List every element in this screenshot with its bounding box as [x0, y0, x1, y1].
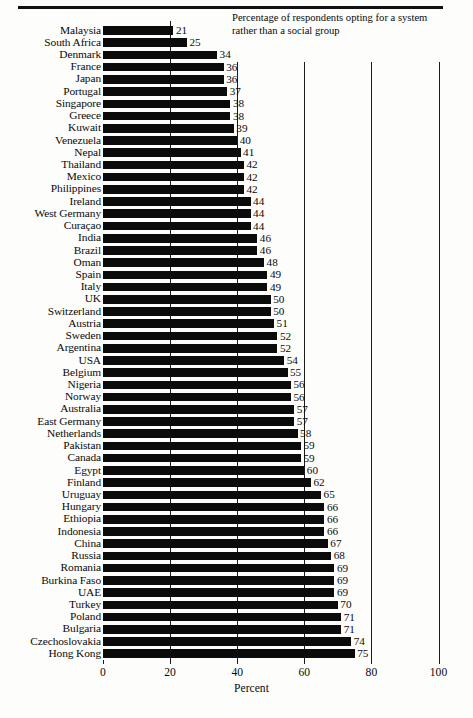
- bar: [103, 332, 277, 341]
- bar: [103, 393, 291, 402]
- bar-value-label: 59: [303, 439, 314, 451]
- bar-value-label: 38: [233, 110, 244, 122]
- bar: [103, 381, 291, 390]
- category-label: Australia: [0, 402, 101, 414]
- bar-value-label: 21: [176, 24, 187, 36]
- category-label: Sweden: [0, 329, 101, 341]
- bar-value-label: 56: [293, 391, 304, 403]
- x-tick-60: [304, 660, 305, 664]
- bar: [103, 161, 244, 170]
- bar: [103, 368, 288, 377]
- bar-value-label: 60: [307, 464, 318, 476]
- category-label: France: [0, 60, 101, 72]
- category-label: Turkey: [0, 598, 101, 610]
- category-label: Egypt: [0, 464, 101, 476]
- x-tick-label-100: 100: [430, 666, 447, 679]
- bar-value-label: 44: [253, 207, 264, 219]
- category-label: Philippines: [0, 182, 101, 194]
- bar-value-label: 65: [324, 488, 335, 500]
- bar: [103, 112, 230, 121]
- category-label: UAE: [0, 586, 101, 598]
- category-label: Canada: [0, 451, 101, 463]
- bar-value-label: 57: [297, 403, 308, 415]
- x-tick-20: [170, 660, 171, 664]
- bar-value-label: 39: [236, 122, 247, 134]
- bar-value-label: 42: [246, 183, 257, 195]
- bar: [103, 564, 334, 573]
- category-label: Belgium: [0, 366, 101, 378]
- bar-value-label: 44: [253, 220, 264, 232]
- category-label: Pakistan: [0, 439, 101, 451]
- bar-value-label: 74: [354, 635, 365, 647]
- category-label: Finland: [0, 476, 101, 488]
- bar: [103, 649, 355, 658]
- x-tick-0: [103, 660, 104, 664]
- category-label: Romania: [0, 561, 101, 573]
- category-label: Nigeria: [0, 378, 101, 390]
- bar-value-label: 36: [226, 61, 237, 73]
- bar: [103, 26, 173, 35]
- category-label: UK: [0, 292, 101, 304]
- header-rule: [18, 6, 443, 9]
- bar-value-label: 71: [344, 611, 355, 623]
- bar: [103, 503, 324, 512]
- category-label: Hong Kong: [0, 647, 101, 659]
- category-label: Kuwait: [0, 121, 101, 133]
- bar: [103, 319, 274, 328]
- bar: [103, 588, 334, 597]
- category-label: Oman: [0, 256, 101, 268]
- category-label: Switzerland: [0, 305, 101, 317]
- category-label: Japan: [0, 72, 101, 84]
- bar-value-label: 58: [300, 427, 311, 439]
- bar: [103, 417, 294, 426]
- bar-chart-figure: Percentage of respondents opting for a s…: [0, 0, 473, 718]
- bar: [103, 100, 230, 109]
- bar-value-label: 38: [233, 97, 244, 109]
- category-label: West Germany: [0, 207, 101, 219]
- bar-value-label: 34: [220, 48, 231, 60]
- bar: [103, 283, 267, 292]
- bar: [103, 87, 227, 96]
- x-tick-label-80: 80: [366, 666, 378, 679]
- category-label: Venezuela: [0, 134, 101, 146]
- bar: [103, 613, 341, 622]
- category-label: Denmark: [0, 48, 101, 60]
- bar: [103, 75, 224, 84]
- bar-value-label: 52: [280, 330, 291, 342]
- category-label: Ireland: [0, 195, 101, 207]
- bar-value-label: 50: [273, 293, 284, 305]
- category-label: Ethiopia: [0, 512, 101, 524]
- category-label: Burkina Faso: [0, 574, 101, 586]
- x-tick-label-0: 0: [100, 666, 106, 679]
- bar-value-label: 51: [277, 317, 288, 329]
- bar-value-label: 62: [314, 476, 325, 488]
- bar-value-label: 25: [189, 36, 200, 48]
- x-tick-label-40: 40: [231, 666, 243, 679]
- bar: [103, 185, 244, 194]
- bar-value-label: 36: [226, 73, 237, 85]
- bar: [103, 209, 251, 218]
- bar: [103, 527, 324, 536]
- category-label: Nepal: [0, 146, 101, 158]
- category-label: Czechoslovakia: [0, 635, 101, 647]
- category-label: Thailand: [0, 158, 101, 170]
- bar: [103, 124, 234, 133]
- bar-value-label: 70: [340, 598, 351, 610]
- category-label: Brazil: [0, 244, 101, 256]
- bar-value-label: 66: [327, 525, 338, 537]
- bar-value-label: 54: [287, 354, 298, 366]
- bar-value-label: 49: [270, 281, 281, 293]
- bar: [103, 637, 351, 646]
- bar-value-label: 44: [253, 195, 264, 207]
- bar-value-label: 68: [334, 549, 345, 561]
- bar: [103, 38, 187, 47]
- category-label: Netherlands: [0, 427, 101, 439]
- category-label: Norway: [0, 390, 101, 402]
- bar-value-label: 56: [293, 378, 304, 390]
- bar-value-label: 50: [273, 305, 284, 317]
- category-label: Poland: [0, 610, 101, 622]
- bar-value-label: 59: [303, 452, 314, 464]
- bar-value-label: 46: [260, 244, 271, 256]
- category-label: Indonesia: [0, 525, 101, 537]
- bar: [103, 356, 284, 365]
